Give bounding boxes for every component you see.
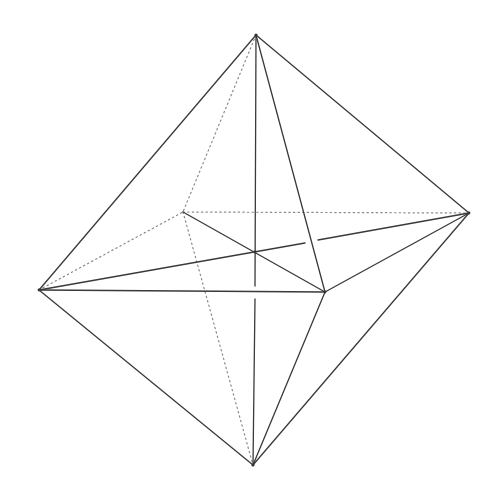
edge-bottom-front: [253, 292, 325, 465]
vertex-center: [254, 251, 257, 254]
edge-top-back: [183, 35, 256, 212]
edge-left-front: [39, 290, 325, 292]
edge-back-bottom: [183, 212, 253, 465]
edge-bottom-right: [253, 213, 469, 465]
axis-vertical-upper: [255, 35, 256, 286]
axis-left-right-a: [39, 243, 305, 290]
vertex-left: [38, 289, 41, 292]
edge-bottom-left: [39, 290, 253, 465]
edge-left-back: [39, 212, 183, 290]
vertex-front: [324, 291, 327, 294]
interior-axes: [39, 35, 469, 465]
octahedron-diagram: [0, 0, 498, 486]
axis-vertical-lower: [253, 299, 255, 465]
vertex-right: [468, 212, 471, 215]
vertex-bottom: [251, 463, 254, 466]
edge-top-right: [256, 35, 469, 213]
edge-top-front: [256, 35, 325, 292]
edge-top-left: [39, 35, 256, 290]
vertex-top: [254, 33, 257, 36]
edge-front-right: [325, 213, 469, 292]
axis-left-right-b: [318, 213, 469, 240]
edge-back-right: [183, 212, 469, 213]
